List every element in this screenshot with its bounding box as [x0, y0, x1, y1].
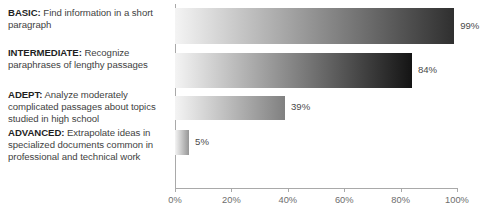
value-label-basic: 99% [460, 20, 479, 31]
category-label-basic: BASIC: Find information in a short parag… [8, 7, 166, 31]
x-axis-tick [457, 188, 458, 192]
x-axis-tick [401, 188, 402, 192]
plot-area: 99% 84% 39% 5% 0%20%40%60%80%100% [167, 0, 483, 216]
value-label-intermediate: 84% [418, 64, 437, 75]
category-label-adept: ADEPT: Analyze moderately complicated pa… [8, 89, 166, 125]
x-axis-tick-label: 100% [445, 195, 469, 205]
category-tier-advanced: ADVANCED: [8, 127, 64, 138]
category-label-column: BASIC: Find information in a short parag… [8, 0, 166, 216]
bar-basic [175, 8, 454, 44]
category-tier-intermediate: INTERMEDIATE: [8, 47, 82, 58]
x-axis-tick [288, 188, 289, 192]
bar-intermediate [175, 53, 412, 88]
x-axis-tick-label: 0% [168, 195, 181, 205]
horizontal-bar-chart: BASIC: Find information in a short parag… [0, 0, 483, 216]
category-tier-basic: BASIC: [8, 7, 41, 18]
x-axis-tick [344, 188, 345, 192]
category-tier-adept: ADEPT: [8, 89, 42, 100]
x-axis-tick-label: 60% [335, 195, 354, 205]
value-label-advanced: 5% [195, 136, 209, 147]
x-axis-line [175, 188, 457, 189]
bar-adept [175, 96, 285, 120]
value-label-adept: 39% [291, 101, 310, 112]
x-axis-tick-label: 20% [222, 195, 241, 205]
x-axis-tick-label: 80% [391, 195, 410, 205]
x-axis-tick [175, 188, 176, 192]
bar-advanced [175, 130, 189, 155]
category-label-intermediate: INTERMEDIATE: Recognize paraphrases of l… [8, 47, 166, 71]
category-label-advanced: ADVANCED: Extrapolate ideas in specializ… [8, 127, 166, 163]
x-axis-tick-label: 40% [278, 195, 297, 205]
x-axis-tick [231, 188, 232, 192]
